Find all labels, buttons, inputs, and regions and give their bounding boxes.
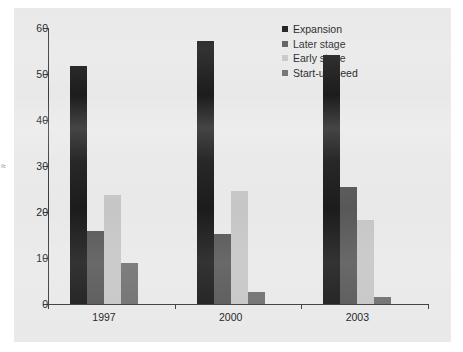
y-tick-label: 20: [22, 207, 48, 218]
bar-expansion-2003: [323, 55, 340, 304]
bar-later-stage-2000: [214, 234, 231, 304]
x-tick-label-1997: 1997: [92, 312, 115, 323]
bar-start-up-seed-2000: [248, 292, 265, 304]
y-tick-label: 0: [22, 299, 48, 310]
legend-swatch-icon: [282, 41, 288, 47]
legend-swatch-icon: [282, 26, 288, 32]
y-tick-label: 10: [22, 253, 48, 264]
bar-early-stage-2000: [231, 191, 248, 304]
chart-legend: ExpansionLater stageEarly stageStart-up/…: [282, 22, 358, 80]
bar-expansion-1997: [70, 66, 87, 304]
y-tick-label: 50: [22, 69, 48, 80]
y-tick-label: 60: [22, 23, 48, 34]
bar-early-stage-1997: [104, 195, 121, 304]
bar-expansion-2000: [197, 41, 214, 304]
x-tick-label-2003: 2003: [346, 312, 369, 323]
legend-item-later-stage: Later stage: [282, 37, 358, 52]
bar-later-stage-2003: [340, 187, 357, 304]
x-axis-line: [48, 304, 428, 305]
x-tick-label-2000: 2000: [219, 312, 242, 323]
x-tick-mark: [175, 304, 176, 309]
bar-start-up-seed-1997: [121, 263, 138, 304]
x-tick-mark: [428, 304, 429, 309]
legend-item-start-up-seed: Start-up/Seed: [282, 66, 358, 81]
legend-label: Early stage: [293, 53, 346, 64]
chart-figure: 0102030405060 199720002003 ExpansionLate…: [14, 8, 451, 342]
margin-scan-artifact: ≈: [1, 162, 7, 173]
bar-early-stage-2003: [357, 220, 374, 304]
legend-item-early-stage: Early stage: [282, 51, 358, 66]
bar-start-up-seed-2003: [374, 297, 391, 304]
x-tick-mark: [48, 304, 49, 309]
x-tick-mark: [301, 304, 302, 309]
legend-label: Later stage: [293, 39, 346, 50]
legend-label: Expansion: [293, 24, 342, 35]
plot-area: 0102030405060 199720002003: [48, 28, 428, 304]
legend-label: Start-up/Seed: [293, 68, 358, 79]
y-tick-label: 30: [22, 161, 48, 172]
legend-swatch-icon: [282, 55, 288, 61]
y-tick-label: 40: [22, 115, 48, 126]
bar-later-stage-1997: [87, 231, 104, 304]
legend-swatch-icon: [282, 70, 288, 76]
legend-item-expansion: Expansion: [282, 22, 358, 37]
y-axis-line: [48, 28, 49, 304]
